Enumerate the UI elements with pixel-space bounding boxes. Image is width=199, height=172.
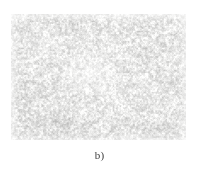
micrograph-image [11,14,186,140]
panel-caption: b) [0,149,199,162]
micrograph-canvas [11,14,186,140]
figure-panel: b) [0,0,199,172]
